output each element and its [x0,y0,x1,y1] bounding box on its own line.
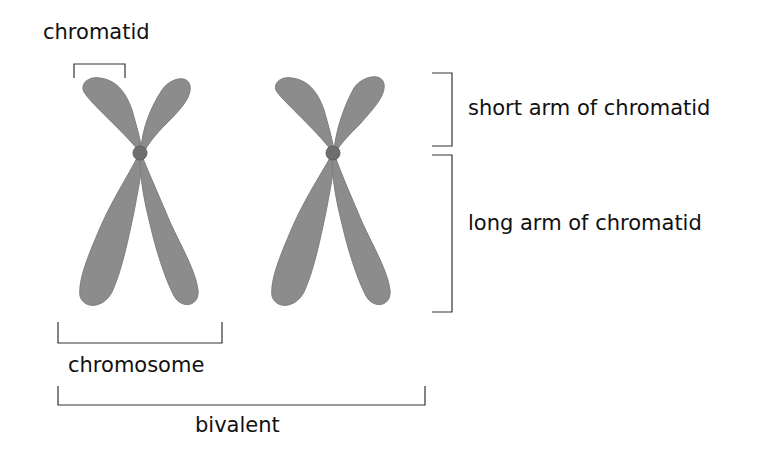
chromosome-diagram: chromatid short arm of chromatid long ar… [0,0,760,464]
chromatid-2a-short-arm [275,78,334,150]
chromatid-1b-long-arm [140,156,198,305]
chromosome-bracket [58,322,222,343]
chromosome-1 [80,78,198,306]
chromatid-2a-long-arm [272,156,334,305]
long-arm-bracket [432,155,452,312]
chromatid-1a-long-arm [80,156,142,305]
chromatid-1b-short-arm [141,79,190,152]
bivalent-label: bivalent [195,415,280,436]
chromatid-label: chromatid [43,22,150,43]
centromere-2 [326,146,340,160]
chromatid-bracket [74,64,125,78]
long-arm-label: long arm of chromatid [468,213,702,234]
centromere-1 [133,146,147,160]
short-arm-label: short arm of chromatid [468,98,710,119]
chromatid-1a-short-arm [83,78,142,150]
chromosome-2 [272,77,390,306]
bivalent-bracket [58,386,425,405]
chromosome-label: chromosome [68,355,204,376]
chromatid-2b-long-arm [332,156,390,305]
chromatid-2b-short-arm [334,77,384,152]
short-arm-bracket [432,73,452,146]
